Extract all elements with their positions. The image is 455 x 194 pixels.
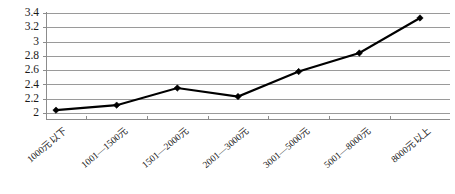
- y-tick-label: 2.6: [25, 63, 40, 75]
- y-tick-label: 3.2: [25, 20, 40, 32]
- chart-background: [0, 0, 455, 194]
- y-tick-label: 2.2: [25, 92, 40, 104]
- line-chart: 22.22.42.62.833.23.4 1000元以下1001—1500元15…: [0, 0, 455, 194]
- y-tick-label: 2: [33, 106, 39, 118]
- chart-canvas: 22.22.42.62.833.23.4 1000元以下1001—1500元15…: [0, 0, 455, 194]
- y-tick-label: 3.4: [25, 6, 40, 18]
- y-tick-label: 2.8: [25, 49, 40, 61]
- y-tick-label: 2.4: [25, 78, 40, 90]
- y-tick-label: 3: [33, 35, 39, 47]
